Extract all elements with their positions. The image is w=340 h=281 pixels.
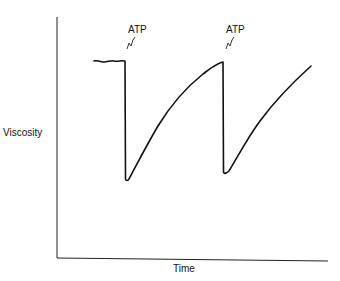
viscosity-curve — [94, 61, 311, 181]
atp-squiggle-2 — [226, 37, 234, 49]
atp-annotation-1: ATP — [128, 24, 147, 35]
y-axis-label: Viscosity — [3, 127, 42, 138]
x-axis — [57, 258, 328, 261]
atp-annotation-2: ATP — [226, 24, 245, 35]
viscosity-chart — [0, 0, 340, 281]
x-axis-label: Time — [173, 263, 195, 274]
atp-squiggle-1 — [127, 37, 135, 49]
